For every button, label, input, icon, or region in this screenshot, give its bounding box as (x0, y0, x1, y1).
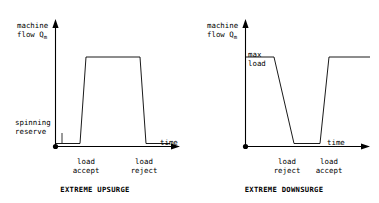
downsurge-x-axis-label: time (327, 138, 345, 147)
upsurge-spinning-reserve-line2: reserve (15, 127, 46, 136)
panel-extreme-downsurge: machineflow Qm maxload time loadreject l… (189, 0, 379, 203)
downsurge-max-load-line2: load (248, 59, 266, 68)
upsurge-load-reject-line1: load (135, 157, 153, 166)
panel-extreme-upsurge: machineflow Qm spinningreserve time load… (0, 0, 190, 203)
downsurge-y-axis-label-line1: machine (207, 21, 238, 30)
downsurge-load-reject-line2: reject (274, 166, 301, 175)
downsurge-y-axis (242, 19, 248, 147)
upsurge-y-axis-label-line1: machine (17, 21, 48, 30)
upsurge-spinning-reserve-line1: spinning (15, 118, 51, 127)
upsurge-y-axis (52, 19, 58, 147)
downsurge-origin-marker (243, 144, 248, 149)
downsurge-flow-curve (246, 57, 371, 144)
upsurge-y-axis-label-line2: flow Q (17, 30, 44, 39)
upsurge-spinning-reserve-label: spinningreserve (15, 118, 51, 136)
downsurge-y-axis-label: machineflow Qm (207, 21, 238, 40)
upsurge-origin-marker (53, 144, 58, 149)
downsurge-max-load-label: maxload (248, 50, 266, 68)
upsurge-load-accept-line1: load (77, 157, 95, 166)
upsurge-y-axis-label-subscript: m (44, 34, 47, 40)
figure-root: machineflow Qm spinningreserve time load… (0, 0, 379, 203)
downsurge-max-load-line1: max (248, 50, 261, 59)
upsurge-load-accept-label: loadaccept (66, 157, 106, 175)
downsurge-load-accept-label: loadaccept (309, 157, 349, 175)
upsurge-x-axis-label: time (160, 138, 178, 147)
downsurge-x-axis (246, 143, 371, 149)
upsurge-load-reject-label: loadreject (124, 157, 164, 175)
downsurge-load-reject-line1: load (278, 157, 296, 166)
downsurge-load-reject-label: loadreject (267, 157, 307, 175)
downsurge-y-axis-label-line2: flow Q (207, 30, 234, 39)
upsurge-flow-curve (56, 57, 171, 144)
upsurge-load-reject-line2: reject (131, 166, 158, 175)
upsurge-y-axis-label: machineflow Qm (17, 21, 48, 40)
upsurge-caption: EXTREME UPSURGE (0, 185, 190, 194)
downsurge-y-axis-label-subscript: m (234, 34, 237, 40)
downsurge-caption: EXTREME DOWNSURGE (189, 185, 379, 194)
downsurge-load-accept-line2: accept (316, 166, 343, 175)
upsurge-load-accept-line2: accept (73, 166, 100, 175)
downsurge-load-accept-line1: load (320, 157, 338, 166)
